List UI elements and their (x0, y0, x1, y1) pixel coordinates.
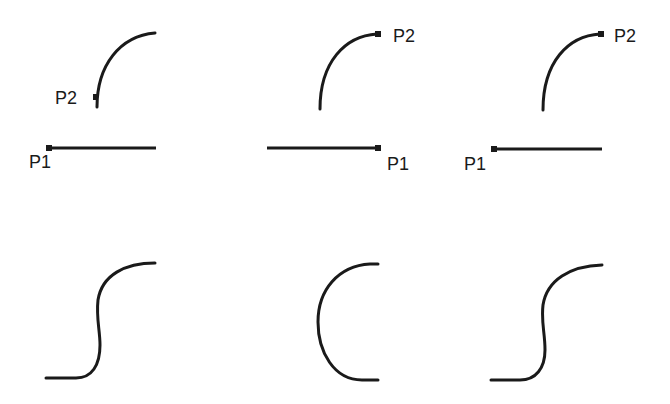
quarter-arc (97, 33, 155, 107)
p1-marker (375, 145, 381, 151)
panel-bottom-left (46, 263, 155, 378)
panel-bottom-right (491, 265, 602, 380)
s-curve (491, 265, 602, 380)
p2-label-panel-1: P2 (55, 89, 77, 107)
p2-marker (93, 94, 98, 100)
p1-label-panel-2: P1 (387, 155, 409, 173)
c-curve (318, 264, 378, 380)
quarter-arc (320, 34, 377, 109)
panel-top-middle (267, 31, 381, 151)
p1-marker (46, 145, 52, 151)
p2-marker (375, 31, 381, 37)
panel-bottom-middle (318, 264, 378, 380)
p1-label-panel-1: P1 (29, 153, 51, 171)
p2-marker (598, 31, 604, 37)
p1-label-panel-3: P1 (464, 155, 486, 173)
quarter-arc (543, 34, 600, 110)
p2-label-panel-2: P2 (393, 27, 415, 45)
s-curve (46, 263, 155, 378)
p2-label-panel-3: P2 (614, 27, 636, 45)
diagram-canvas (0, 0, 670, 404)
p1-marker (491, 146, 497, 152)
panel-top-right (491, 31, 604, 152)
